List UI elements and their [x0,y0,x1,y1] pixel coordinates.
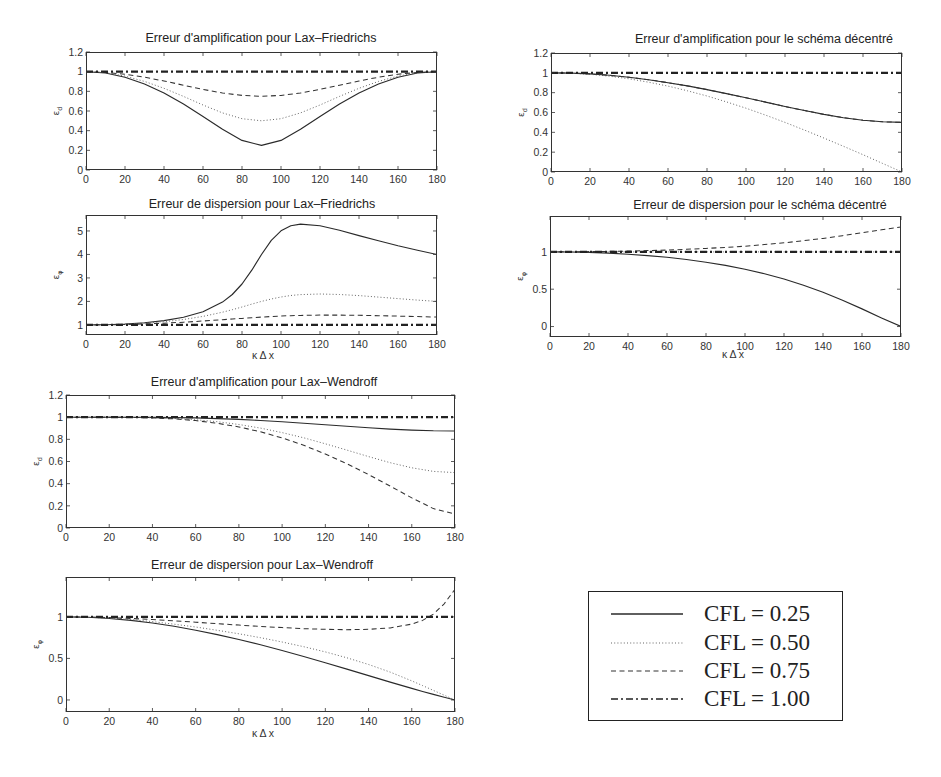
x-tick-label: 0 [548,175,554,187]
series-line-cfl-075 [551,73,902,123]
y-tick-label: 1.2 [48,389,63,401]
plot-lines [551,73,902,172]
dashdot-line-swatch-icon [611,685,683,713]
axes-frame [552,54,902,172]
x-tick-label: 180 [428,338,446,350]
x-tick-label: 80 [236,173,248,185]
y-tick-label: 0.4 [48,477,63,489]
axis-ticks [551,53,902,172]
legend-label: CFL = 0.75 [704,657,810,685]
plot-area: 02040608010012014016018000.20.40.60.811.… [86,52,437,170]
chart-dispersion-upwind: 02040608010012014016018000.51εφ [550,216,901,337]
plot-lines [550,227,901,327]
series-line-cfl-025 [66,417,455,431]
series-line-cfl-050 [66,617,455,700]
chart-dispersion-lax-friedrichs: 02040608010012014016018012345εφ [86,215,437,335]
y-tick-label: 0.8 [68,85,83,97]
series-line-cfl-025 [86,72,437,146]
chart-title: Erreur de dispersion pour le schéma déce… [633,198,887,213]
series-line-cfl-075 [66,589,455,630]
legend-entry-cfl-075: CFL = 0.75 [589,657,842,685]
x-tick-label: 160 [403,715,421,727]
chart-amplification-upwind: 02040608010012014016018000.20.40.60.811.… [551,53,902,172]
x-tick-label: 40 [622,340,634,352]
dotted-line-swatch-icon [611,629,683,657]
axis-ticks [86,52,437,170]
legend-entry-cfl-025: CFL = 0.25 [589,600,842,628]
y-axis-label: εφ [51,270,64,279]
y-tick-label: 5 [77,225,83,237]
series-line-cfl-075 [66,417,455,514]
series-line-cfl-025 [551,73,902,123]
axis-ticks [66,395,455,528]
x-tick-label: 120 [317,715,335,727]
x-axis-label: κ Δ x [252,727,274,739]
plot-lines [66,589,455,700]
x-tick-label: 180 [893,175,911,187]
x-tick-label: 100 [273,715,291,727]
y-axis-label: εd [516,108,529,117]
x-tick-label: 120 [776,175,794,187]
y-tick-label: 4 [77,248,83,260]
chart-title: Erreur d'amplification pour Lax–Wendroff [151,375,377,390]
x-tick-label: 140 [360,715,378,727]
x-tick-label: 40 [158,173,170,185]
x-tick-label: 180 [892,340,910,352]
x-tick-label: 120 [311,173,329,185]
y-tick-label: 0.6 [68,105,83,117]
series-line-cfl-050 [66,417,455,472]
x-tick-label: 60 [190,531,202,543]
chart-title: Erreur d'amplification pour le schéma dé… [635,32,893,47]
y-tick-label: 0.8 [48,433,63,445]
y-tick-label: 3 [77,272,83,284]
series-line-cfl-025 [550,252,901,327]
y-tick-label: 0.8 [533,86,548,98]
x-tick-label: 60 [190,715,202,727]
y-tick-label: 0 [541,320,547,332]
y-axis-label: εd [51,106,64,115]
x-tick-label: 20 [584,175,596,187]
x-tick-label: 80 [233,715,245,727]
legend-label: CFL = 0.50 [704,629,810,657]
x-tick-label: 0 [83,338,89,350]
y-tick-label: 0.4 [68,124,83,136]
series-line-cfl-075 [550,227,901,252]
x-tick-label: 160 [403,531,421,543]
x-tick-label: 140 [815,175,833,187]
x-tick-label: 40 [623,175,635,187]
x-tick-label: 0 [83,173,89,185]
solid-line-swatch-icon [611,600,683,628]
x-tick-label: 100 [272,338,290,350]
x-tick-label: 0 [63,531,69,543]
y-tick-label: 1 [541,246,547,258]
plot-area: 02040608010012014016018000.51εφ [66,577,455,712]
y-tick-label: 0.6 [533,106,548,118]
y-tick-label: 1.2 [68,46,83,58]
legend: CFL = 0.25 CFL = 0.50 CFL = 0.75 CFL = 1… [588,591,843,721]
dashed-line-swatch-icon [611,657,683,685]
plot-area: 02040608010012014016018000.51εφ [550,216,901,337]
x-tick-label: 140 [350,173,368,185]
y-tick-label: 0.2 [48,500,63,512]
x-tick-label: 80 [700,340,712,352]
x-tick-label: 140 [360,531,378,543]
chart-title: Erreur de dispersion pour Lax–Wendroff [151,558,373,573]
chart-amplification-lax-wendroff: 02040608010012014016018000.20.40.60.811.… [66,395,455,528]
x-tick-label: 20 [103,531,115,543]
x-tick-label: 180 [446,715,464,727]
series-line-cfl-025 [66,617,455,700]
x-tick-label: 100 [273,531,291,543]
x-tick-label: 160 [853,340,871,352]
chart-amplification-lax-friedrichs: 02040608010012014016018000.20.40.60.811.… [86,52,437,170]
plot-area: 02040608010012014016018012345εφ [86,215,437,335]
x-tick-label: 20 [119,173,131,185]
y-tick-label: 0.2 [533,146,548,158]
x-tick-label: 40 [147,531,159,543]
chart-title: Erreur de dispersion pour Lax–Friedrichs [149,197,376,212]
x-tick-label: 0 [63,715,69,727]
series-line-cfl-075 [86,72,437,97]
x-tick-label: 180 [446,531,464,543]
x-tick-label: 80 [236,338,248,350]
x-tick-label: 160 [854,175,872,187]
legend-entry-cfl-100: CFL = 1.00 [589,685,842,713]
